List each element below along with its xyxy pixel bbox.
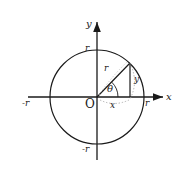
hypotenuse-label: r (104, 64, 108, 73)
x-axis-arrow-icon (153, 93, 163, 101)
tick-label-x-negative: -r (22, 99, 29, 108)
horizontal-leg-label: x (110, 101, 115, 110)
angle-theta-label: θ (107, 84, 113, 94)
vertical-leg-label: y (134, 75, 139, 84)
x-axis-label: x (166, 92, 172, 102)
unit-circle-diagram: y x O r -r -r r r y x θ (0, 0, 182, 172)
y-axis-arrow-icon (93, 22, 101, 32)
radius-segment (97, 63, 130, 97)
origin-label: O (85, 98, 95, 110)
y-axis-label: y (86, 19, 92, 29)
tick-label-y-negative: -r (82, 145, 89, 154)
tick-label-x-positive: r (145, 99, 149, 108)
tick-label-y-positive: r (85, 44, 89, 53)
